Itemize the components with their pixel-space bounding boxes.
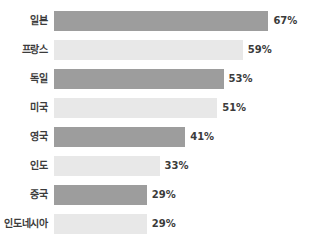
bar-value-label: 33% xyxy=(165,156,189,176)
category-label: 프랑스 xyxy=(0,40,48,60)
bar-track: 29% xyxy=(54,214,314,234)
bar-row: 중국29% xyxy=(0,185,314,205)
bar-value-label: 41% xyxy=(190,127,214,147)
bar-row: 미국51% xyxy=(0,98,314,118)
category-label: 인도네시아 xyxy=(0,214,48,234)
bar-track: 51% xyxy=(54,98,314,118)
bar xyxy=(54,69,224,89)
bar xyxy=(54,127,185,147)
bar xyxy=(54,214,147,234)
bar-track: 41% xyxy=(54,127,314,147)
bar xyxy=(54,156,160,176)
bar-value-label: 51% xyxy=(222,98,246,118)
bar-value-label: 53% xyxy=(229,69,253,89)
category-label: 인도 xyxy=(0,156,48,176)
bar xyxy=(54,98,217,118)
bar-track: 53% xyxy=(54,69,314,89)
bar-row: 프랑스59% xyxy=(0,40,314,60)
bar xyxy=(54,40,243,60)
bar-row: 영국41% xyxy=(0,127,314,147)
category-label: 독일 xyxy=(0,69,48,89)
bar-track: 33% xyxy=(54,156,314,176)
category-label: 영국 xyxy=(0,127,48,147)
bar-value-label: 67% xyxy=(273,11,297,31)
bar-row: 인도33% xyxy=(0,156,314,176)
bar-track: 67% xyxy=(54,11,314,31)
category-label: 일본 xyxy=(0,11,48,31)
bar-chart: 일본67%프랑스59%독일53%미국51%영국41%인도33%중국29%인도네시… xyxy=(0,0,314,238)
category-label: 미국 xyxy=(0,98,48,118)
bar-row: 인도네시아29% xyxy=(0,214,314,234)
bar-track: 29% xyxy=(54,185,314,205)
bar-row: 일본67% xyxy=(0,11,314,31)
bar-value-label: 59% xyxy=(248,40,272,60)
bar-value-label: 29% xyxy=(152,185,176,205)
bar-value-label: 29% xyxy=(152,214,176,234)
bar-track: 59% xyxy=(54,40,314,60)
bar xyxy=(54,185,147,205)
bar-row: 독일53% xyxy=(0,69,314,89)
bar xyxy=(54,11,268,31)
category-label: 중국 xyxy=(0,185,48,205)
